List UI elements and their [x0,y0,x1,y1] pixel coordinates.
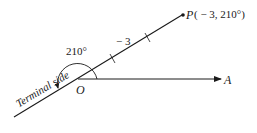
axis-a-label: A [224,74,231,86]
polar-coordinate-diagram: P ( − 3, 210°) 210° − 3 O A Terminal sid… [0,0,257,133]
distance-label: − 3 [116,36,130,47]
origin-label: O [76,84,85,96]
point-p-coords: ( − 3, 210°) [194,9,245,20]
angle-label: 210° [66,46,87,57]
point-p-dot [181,13,185,17]
point-p-label: P [186,9,193,21]
ray-op-line [14,15,182,117]
